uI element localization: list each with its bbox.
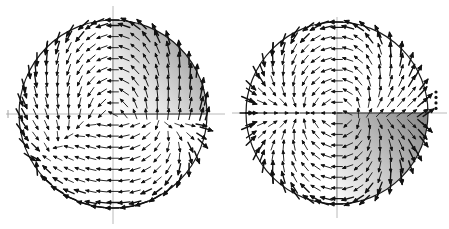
dotted-line-dot (434, 90, 437, 93)
vector-field-figure (0, 0, 449, 229)
dotted-line-dot (434, 101, 437, 104)
dotted-line-dot (434, 96, 437, 99)
figure-container (0, 0, 449, 229)
dotted-line-dot (434, 107, 437, 110)
